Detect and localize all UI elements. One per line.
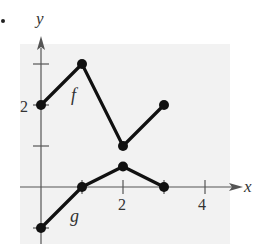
series-f-point <box>118 141 128 151</box>
y-tick-label-2: 2 <box>20 98 28 115</box>
series-f-point <box>36 100 46 110</box>
series-g-point <box>77 182 87 192</box>
series-g-point <box>36 223 46 233</box>
x-axis-label: x <box>243 177 252 196</box>
function-graph: y x 2 4 2 f g <box>0 0 259 244</box>
g-curve-label: g <box>70 206 79 226</box>
series-f-point <box>159 100 169 110</box>
series-g-point <box>118 162 128 172</box>
y-axis-label: y <box>34 9 44 28</box>
series-f-point <box>77 59 87 69</box>
x-tick-label-2: 2 <box>118 196 126 213</box>
series-g-point <box>159 182 169 192</box>
x-tick-label-4: 4 <box>198 196 206 213</box>
